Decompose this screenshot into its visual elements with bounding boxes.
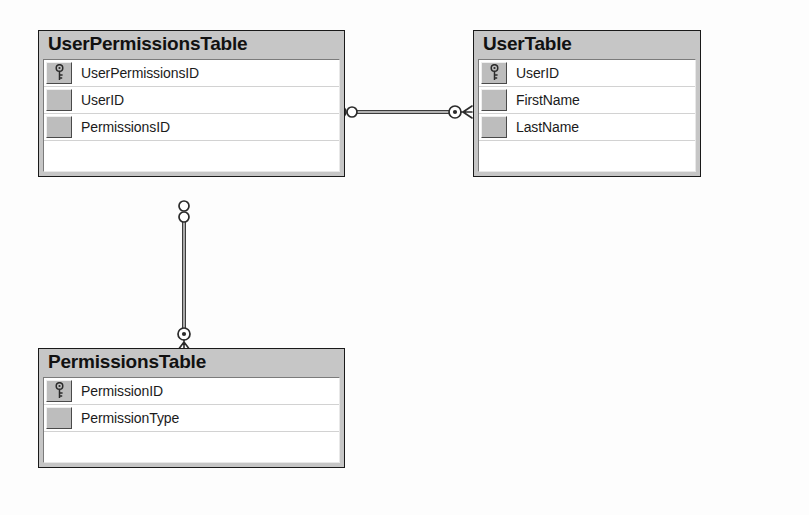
entity-title-userpermissions: UserPermissionsTable <box>39 31 344 59</box>
crows-foot-right <box>461 106 472 118</box>
attribute-row-blank[interactable] <box>44 141 339 171</box>
diagram-canvas: UserPermissionsTable UserPermissionsID <box>0 0 809 515</box>
attribute-name: FirstName <box>507 87 695 113</box>
relationship-userpermissions-user[interactable] <box>336 106 472 118</box>
attribute-row[interactable]: PermissionsID <box>44 114 339 141</box>
attribute-name: UserID <box>507 60 695 86</box>
cardinality-zero-circle-outer-top <box>179 201 189 211</box>
attribute-name: UserPermissionsID <box>72 60 339 86</box>
attribute-row[interactable]: LastName <box>479 114 695 141</box>
attribute-row[interactable]: UserID <box>44 87 339 114</box>
primary-key-icon <box>489 64 500 81</box>
attribute-gutter <box>46 380 72 402</box>
entity-title-user: UserTable <box>474 31 700 59</box>
cardinality-zero-circle-inner-left <box>347 107 357 117</box>
attribute-row[interactable]: PermissionType <box>44 405 339 432</box>
entity-title-permissions: PermissionsTable <box>39 349 344 377</box>
attribute-name-blank <box>72 432 339 462</box>
entity-permissions-table[interactable]: PermissionsTable PermissionID <box>38 348 345 468</box>
attribute-name: LastName <box>507 114 695 140</box>
attribute-grid-permissions: PermissionID PermissionType <box>43 377 340 463</box>
attribute-name: PermissionID <box>72 378 339 404</box>
attribute-row[interactable]: UserID <box>479 60 695 87</box>
attribute-row[interactable]: PermissionID <box>44 378 339 405</box>
attribute-row[interactable]: FirstName <box>479 87 695 114</box>
attribute-name: PermissionType <box>72 405 339 431</box>
attribute-gutter <box>46 89 72 111</box>
attribute-row-blank[interactable] <box>479 141 695 171</box>
attribute-grid-user: UserID FirstName LastName <box>478 59 696 172</box>
relationship-userpermissions-permissions[interactable] <box>178 201 190 350</box>
attribute-name: UserID <box>72 87 339 113</box>
attribute-grid-userpermissions: UserPermissionsID UserID PermissionsID <box>43 59 340 172</box>
attribute-row[interactable]: UserPermissionsID <box>44 60 339 87</box>
attribute-gutter <box>46 62 72 84</box>
attribute-gutter <box>46 407 72 429</box>
primary-key-icon <box>54 382 65 399</box>
attribute-gutter <box>481 89 507 111</box>
attribute-row-blank[interactable] <box>44 432 339 462</box>
entity-user-table[interactable]: UserTable UserID <box>473 30 701 177</box>
cardinality-dot-bottom <box>182 332 186 336</box>
attribute-gutter <box>481 62 507 84</box>
entity-userpermissions-table[interactable]: UserPermissionsTable UserPermissionsID <box>38 30 345 177</box>
attribute-name: PermissionsID <box>72 114 339 140</box>
primary-key-icon <box>54 64 65 81</box>
attribute-name-blank <box>507 141 695 171</box>
attribute-gutter <box>46 116 72 138</box>
attribute-name-blank <box>72 141 339 171</box>
attribute-gutter <box>481 116 507 138</box>
cardinality-dot-right <box>453 110 457 114</box>
cardinality-zero-circle-inner-top <box>179 212 189 222</box>
